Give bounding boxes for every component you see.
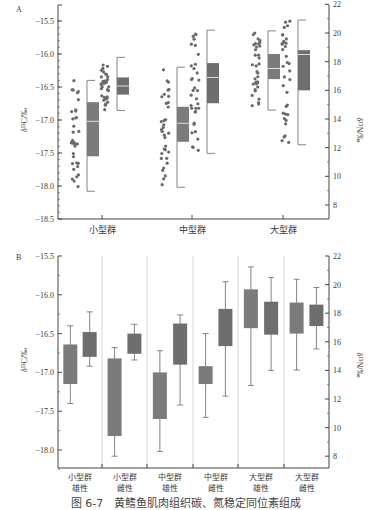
y-tick-label-left: −15.5 [35,17,54,26]
y-tick-label-right: 8 [333,452,337,461]
data-point [192,146,195,149]
x-category-sublabel: 雄性 [72,483,88,493]
data-point [76,142,79,145]
data-point [190,64,193,67]
data-point [283,75,286,78]
data-point [101,80,104,83]
y-tick-label-right: 10 [333,424,341,433]
y-axis-label-right: δ¹⁵N/‰ [355,118,364,143]
data-point [160,157,163,160]
data-point [284,21,287,24]
x-category-sublabel: 雄性 [253,483,269,493]
data-point [194,44,197,47]
data-point [161,183,164,186]
box [63,344,77,384]
data-point [288,62,291,65]
data-point [256,75,259,78]
data-point [257,42,260,45]
x-category-label: 大型群 [249,472,273,482]
x-category-sublabel: 雌性 [208,483,224,493]
data-point [167,88,170,91]
data-point [194,110,197,113]
data-point [288,20,291,23]
y-tick-label-right: 18 [333,58,341,67]
data-point [73,141,76,144]
box [173,324,187,365]
y-tick-label-right: 14 [333,366,341,375]
data-point [285,91,288,94]
x-category-label: 中型群 [179,224,206,235]
data-point [101,67,104,70]
data-point [283,26,286,29]
data-point [167,132,170,135]
data-point [167,101,170,104]
data-point [197,149,200,152]
data-point [76,185,79,188]
data-point [166,79,169,82]
data-point [167,105,170,108]
y-tick-label-left: −17.5 [35,407,54,416]
panel-a: −15.5−16.0−16.5−17.0−17.5−18.0−18.522201… [16,0,364,235]
data-point [252,33,255,36]
data-point [284,119,287,122]
data-point [254,88,257,91]
data-point [165,157,168,160]
data-point [193,122,196,125]
y-tick-label-right: 18 [333,309,341,318]
data-point [77,98,80,101]
data-point [251,94,254,97]
box [83,332,97,357]
data-point [196,89,199,92]
data-point [285,55,288,58]
y-tick-label-right: 22 [333,252,341,261]
data-point [166,162,169,165]
box [218,309,232,346]
y-tick-label-left: −16.0 [35,291,54,300]
box [87,102,99,156]
y-tick-label-left: −17.5 [35,149,54,158]
y-tick-label-left: −16.5 [35,83,54,92]
box [127,334,141,354]
x-category-label: 小型群 [68,472,92,482]
figure-caption: 图 6-7 黄鳍鱼肌肉组织碳、氮稳定同位素组成 [0,494,372,510]
y-axis-label-right: δ¹⁵N/‰ [355,353,364,378]
data-point [193,86,196,89]
data-point [163,136,166,139]
data-point [256,80,259,83]
data-point [77,162,80,165]
data-point [104,103,107,106]
data-point [160,128,163,131]
data-point [190,94,193,97]
data-point [254,54,257,57]
y-axis-label-left: δ¹³C/‰ [20,348,29,372]
data-point [284,122,287,125]
data-point [281,33,284,36]
data-point [194,130,197,133]
data-point [164,174,167,177]
x-category-label: 中型群 [158,472,182,482]
data-point [285,37,288,40]
data-point [193,38,196,41]
panel-b: −15.5−16.0−16.5−17.0−17.5−18.02220181614… [16,252,364,493]
y-tick-label-right: 20 [333,281,341,290]
y-tick-label-right: 16 [333,338,341,347]
data-point [76,91,79,94]
data-point [160,120,163,123]
data-point [190,107,193,110]
data-point [286,103,289,106]
data-point [195,97,198,100]
data-point [286,113,289,116]
data-point [197,53,200,56]
data-point [72,168,75,171]
data-point [196,137,199,140]
data-point [252,43,255,46]
x-category-sublabel: 雄性 [162,483,178,493]
data-point [70,141,73,144]
data-point [288,69,291,72]
data-point [106,78,109,81]
data-point [282,65,285,68]
y-tick-label-right: 8 [333,201,337,210]
data-point [103,108,106,111]
data-point [101,85,104,88]
